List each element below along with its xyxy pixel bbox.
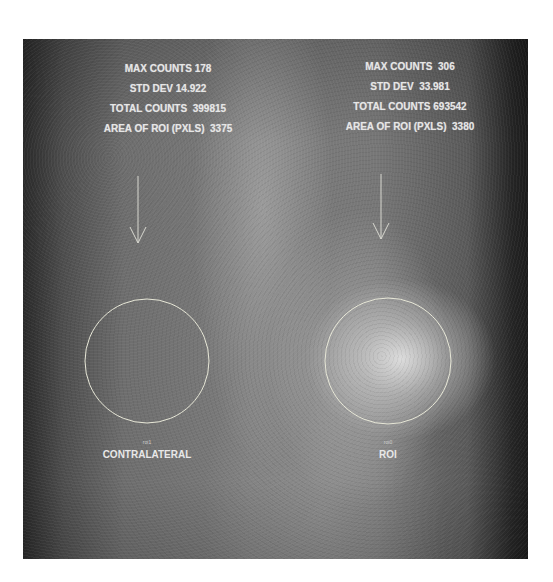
contralateral-roi-circle[interactable] — [85, 299, 209, 423]
roi0-tag: roi0 — [368, 439, 408, 445]
contralateral-caption: CONTRALATERAL — [77, 449, 217, 460]
down-arrow-icon — [373, 174, 389, 239]
scintigraphy-image: MAX COUNTS 178 STD DEV 14.922 TOTAL COUN… — [23, 39, 528, 559]
roi1-tag: roi1 — [127, 439, 167, 445]
roi-overlay — [23, 39, 528, 559]
target-roi-circle[interactable] — [325, 298, 451, 424]
roi-caption: ROI — [348, 449, 428, 460]
down-arrow-icon — [130, 176, 146, 243]
